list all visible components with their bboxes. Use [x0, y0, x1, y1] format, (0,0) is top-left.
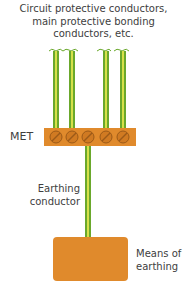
protective-conductors: [49, 49, 129, 129]
earthing-conductor-label-line-1: Earthing: [0, 183, 80, 196]
conductor-2: [63, 49, 78, 129]
means-of-earthing-block: [53, 237, 128, 281]
main-earthing-terminal: [44, 128, 136, 146]
met-label: MET: [10, 131, 33, 144]
terminal-screw-3: [82, 131, 94, 143]
terminal-screw-4: [100, 131, 112, 143]
means-of-earthing-label-line-1: Means of: [136, 248, 181, 261]
terminal-screw-2: [66, 131, 78, 143]
earthing-conductor: [85, 145, 91, 239]
terminal-screw-5: [117, 131, 129, 143]
conductor-1: [49, 49, 63, 129]
conductor-4: [114, 49, 129, 129]
means-of-earthing-label-line-2: earthing: [136, 261, 181, 274]
means-of-earthing-label: Means of earthing: [136, 248, 181, 273]
earthing-conductor-label-line-2: conductor: [0, 196, 80, 209]
terminal-screw-1: [50, 131, 62, 143]
conductor-3: [97, 49, 111, 129]
earthing-conductor-label: Earthing conductor: [0, 183, 80, 208]
